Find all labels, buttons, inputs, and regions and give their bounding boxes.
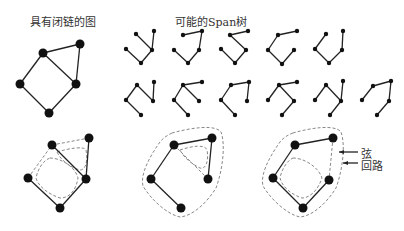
tree-node [246, 29, 250, 33]
tree-node [150, 48, 154, 52]
tree-edge [221, 100, 235, 115]
graph-node [56, 204, 65, 213]
arrow-head-icon [339, 150, 344, 154]
tree-node [134, 32, 138, 36]
tree-edge [230, 35, 246, 50]
tree-edge [199, 31, 202, 50]
tree-node [135, 83, 139, 87]
graph-edge [20, 84, 49, 113]
tree-node [152, 80, 156, 84]
graph-node [291, 141, 300, 150]
tree-node [124, 47, 128, 51]
tree-edge [278, 31, 297, 35]
tree-edge [279, 85, 294, 101]
tree-node [152, 29, 156, 33]
graph-edge [76, 44, 80, 84]
tree-edge [295, 138, 333, 145]
tree-node [371, 84, 375, 88]
loop-outline [180, 146, 208, 168]
tree-edge [141, 50, 152, 63]
tree-edge [326, 85, 341, 101]
tree-edge [152, 31, 154, 50]
graph-node [269, 174, 278, 183]
tree-node [266, 98, 270, 102]
tree-node [387, 99, 391, 103]
graph-edge [49, 84, 76, 113]
tree-node [197, 48, 201, 52]
tree-edge [329, 50, 342, 63]
chord-edge [329, 138, 333, 180]
graph-node [329, 134, 338, 143]
graph-node [72, 80, 81, 89]
tree-edge [268, 35, 278, 50]
tree-node [327, 61, 331, 65]
tree-edge [282, 50, 294, 64]
graph-edge [20, 53, 43, 84]
diagram-canvas [0, 0, 404, 231]
tree-edge [208, 138, 212, 179]
tree-edge [230, 31, 248, 35]
tree-edge [183, 82, 202, 85]
graph-node [147, 175, 156, 184]
tree-edge [126, 100, 141, 115]
tree-node [277, 83, 281, 87]
tree-edge [151, 179, 181, 208]
tree-edge [377, 101, 389, 115]
tree-edge [268, 85, 279, 100]
spanning-trees-title: 可能的Span树 [175, 13, 247, 29]
tree-edge [60, 179, 86, 208]
tree-node [197, 99, 201, 103]
tree-node [313, 47, 317, 51]
tree-edge [342, 31, 343, 50]
tree-node [324, 32, 328, 36]
tree-node [375, 113, 379, 117]
tree-edge [221, 85, 231, 100]
tree-edge [273, 145, 295, 178]
tree-edge [174, 85, 183, 100]
graph-title: 具有闭链的图 [30, 13, 96, 29]
tree-node [313, 98, 317, 102]
tree-edge [52, 145, 86, 179]
tree-node [292, 99, 296, 103]
graph-node [48, 141, 57, 150]
tree-node [228, 33, 232, 37]
tree-node [219, 98, 223, 102]
tree-edge [151, 145, 174, 179]
tree-node [233, 61, 237, 65]
graph-node [325, 176, 334, 185]
tree-edge [136, 34, 152, 50]
tree-node [295, 29, 299, 33]
tree-edge [183, 31, 202, 35]
tree-edge [235, 50, 246, 63]
graph-node [204, 175, 213, 184]
tree-node [186, 113, 190, 117]
tree-node [172, 98, 176, 102]
tree-node [186, 61, 190, 65]
tree-edge [137, 85, 153, 101]
graph-node [299, 204, 308, 213]
tree-node [292, 48, 296, 52]
graph-node [170, 141, 179, 150]
tree-edge [153, 82, 154, 101]
graph-node [39, 49, 48, 58]
tree-node [244, 48, 248, 52]
tree-node [219, 47, 223, 51]
tree-node [276, 33, 280, 37]
chord-edge [28, 145, 52, 178]
tree-node [139, 61, 143, 65]
tree-node [172, 48, 176, 52]
graph-node [16, 80, 25, 89]
arrow-head-icon [343, 161, 348, 165]
tree-edge [341, 81, 343, 101]
graph-edge [43, 53, 76, 84]
tree-edge [315, 49, 329, 63]
tree-edge [126, 85, 137, 100]
tree-node [324, 83, 328, 87]
tree-edge [279, 82, 297, 85]
loop-outline [57, 148, 87, 170]
tree-node [181, 33, 185, 37]
tree-node [341, 79, 345, 83]
tree-node [339, 99, 343, 103]
tree-edge [183, 85, 199, 101]
tree-edge [188, 50, 199, 63]
